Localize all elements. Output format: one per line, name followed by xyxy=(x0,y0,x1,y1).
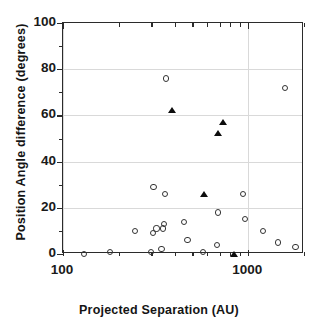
y-tick-label: 60 xyxy=(41,107,56,121)
gridline-horizontal xyxy=(63,208,302,209)
data-point-circle xyxy=(150,184,156,190)
data-point-circle xyxy=(292,244,298,250)
gridline-vertical xyxy=(63,23,64,252)
x-axis-minor-tick-top xyxy=(220,23,221,27)
x-axis-minor-tick xyxy=(304,252,305,256)
gridline-vertical xyxy=(248,23,249,252)
data-point-circle xyxy=(275,239,281,245)
data-point-circle xyxy=(163,75,169,81)
x-axis-minor-tick xyxy=(207,252,208,256)
x-axis-tick xyxy=(248,250,249,256)
data-point-circle xyxy=(260,228,266,234)
data-point-triangle xyxy=(214,130,222,136)
data-point-circle xyxy=(153,225,159,231)
x-tick-label: 100 xyxy=(32,263,92,277)
data-point-triangle xyxy=(200,191,208,197)
x-axis-title: Projected Separation (AU) xyxy=(0,303,318,317)
data-point-circle xyxy=(181,219,187,225)
x-axis-tick xyxy=(63,250,64,256)
x-axis-minor-tick xyxy=(119,252,120,256)
y-tick-label: 80 xyxy=(41,61,56,75)
x-axis-minor-tick-top xyxy=(119,23,120,27)
gridline-horizontal xyxy=(63,115,302,116)
x-axis-minor-tick-top xyxy=(192,23,193,27)
data-point-circle xyxy=(282,85,288,91)
x-tick-label: 1000 xyxy=(217,263,277,277)
data-point-triangle xyxy=(230,251,238,257)
data-point-circle xyxy=(161,221,167,227)
data-point-circle xyxy=(162,191,168,197)
y-tick-label: 0 xyxy=(48,246,56,260)
x-axis-minor-tick xyxy=(240,252,241,256)
y-tick-label: 20 xyxy=(41,200,56,214)
data-point-circle xyxy=(240,191,246,197)
x-axis-minor-tick-top xyxy=(230,23,231,27)
x-axis-tick-top xyxy=(248,23,249,29)
gridline-horizontal xyxy=(63,69,302,70)
x-axis-minor-tick xyxy=(175,252,176,256)
x-axis-minor-tick-top xyxy=(304,23,305,27)
y-tick-label: 100 xyxy=(33,15,56,29)
x-axis-minor-tick xyxy=(220,252,221,256)
data-point-circle xyxy=(242,216,248,222)
x-axis-minor-tick-top xyxy=(151,23,152,27)
x-axis-minor-tick-top xyxy=(240,23,241,27)
data-point-circle xyxy=(215,209,221,215)
data-point-circle xyxy=(148,249,154,255)
plot-area xyxy=(62,22,303,253)
x-axis-minor-tick-top xyxy=(207,23,208,27)
y-axis-title: Position Angle difference (degrees) xyxy=(14,7,28,257)
data-point-circle xyxy=(214,242,220,248)
data-point-triangle xyxy=(219,119,227,125)
data-point-circle xyxy=(107,249,113,255)
x-axis-minor-tick-top xyxy=(175,23,176,27)
y-tick-label: 40 xyxy=(41,154,56,168)
data-point-circle xyxy=(158,246,164,252)
scatter-plot-figure: 020406080100 1001000 Projected Separatio… xyxy=(0,0,318,328)
data-point-circle xyxy=(132,228,138,234)
gridline-horizontal xyxy=(63,162,302,163)
x-axis-minor-tick xyxy=(192,252,193,256)
x-axis-tick-top xyxy=(63,23,64,29)
data-point-triangle xyxy=(168,107,176,113)
data-point-circle xyxy=(184,237,190,243)
data-point-circle xyxy=(81,251,87,257)
data-point-circle xyxy=(200,249,206,255)
